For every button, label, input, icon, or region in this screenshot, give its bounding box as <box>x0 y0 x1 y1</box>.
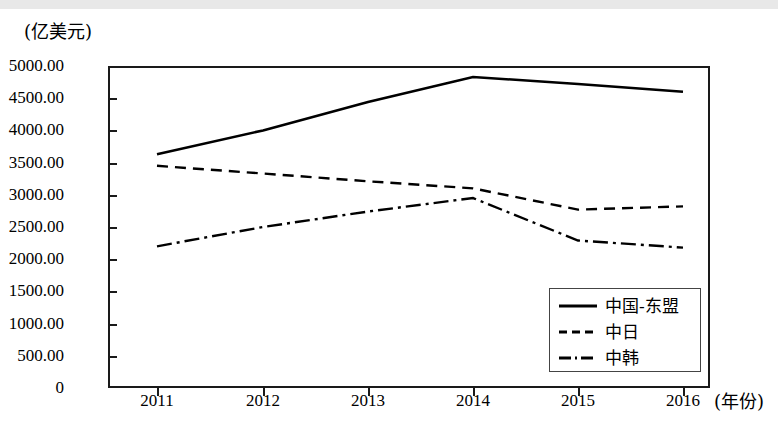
series-line-2 <box>157 166 683 210</box>
series-line-3 <box>157 198 683 248</box>
legend-line-swatch-dash-dot-icon <box>558 352 598 364</box>
legend-label: 中国-东盟 <box>605 297 679 315</box>
legend-item: 中国-东盟 <box>558 293 694 319</box>
legend-line-swatch-solid-icon <box>558 300 598 312</box>
legend-label: 中韩 <box>605 349 639 367</box>
x-axis-title: (年份) <box>714 392 764 412</box>
legend-label: 中日 <box>605 323 639 341</box>
legend: 中国-东盟中日中韩 <box>549 288 701 372</box>
series-line-1 <box>157 77 683 154</box>
legend-item: 中韩 <box>558 345 694 371</box>
legend-line-swatch-dashed-icon <box>558 326 598 338</box>
line-chart: (亿美元) 5000.004500.004000.003500.003000.0… <box>0 0 778 436</box>
legend-item: 中日 <box>558 319 694 345</box>
